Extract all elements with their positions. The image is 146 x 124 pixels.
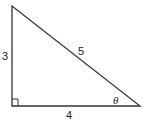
triangle-figure [0,0,146,124]
right-angle-marker [12,99,18,106]
side-label-horizontal: 4 [66,110,72,121]
right-triangle [12,6,140,106]
angle-label-theta: θ [113,95,118,106]
side-label-vertical: 3 [2,51,8,62]
side-label-hypotenuse: 5 [78,46,84,57]
